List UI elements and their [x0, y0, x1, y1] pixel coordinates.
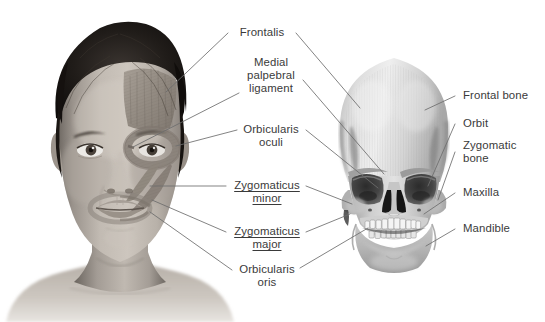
- label-mandible: Mandible: [463, 222, 510, 235]
- label-frontalis-line-1: Frontalis: [232, 26, 292, 39]
- label-frontal-bone-line-1: Frontal bone: [463, 89, 528, 102]
- label-orbicularis-oculi-line-2: oculi: [238, 136, 304, 149]
- label-orbicularis-oris: Orbicularis oris: [234, 263, 300, 289]
- label-frontal-bone: Frontal bone: [463, 89, 528, 102]
- label-zygomaticus-major-line-1: Zygomaticus: [234, 225, 300, 237]
- label-zygomatic-bone: Zygomatic bone: [463, 139, 516, 165]
- label-medial-palpebral-ligament-line-3: ligament: [239, 82, 303, 95]
- label-zygomaticus-minor: Zygomaticus minor: [230, 179, 304, 205]
- label-orbicularis-oris-line-2: oris: [234, 276, 300, 289]
- label-zygomatic-bone-line-1: Zygomatic: [463, 139, 516, 152]
- label-orbicularis-oris-line-1: Orbicularis: [234, 263, 300, 276]
- anatomy-figure: Frontalis Medial palpebral ligament Orbi…: [0, 0, 545, 322]
- label-zygomaticus-minor-line-2: minor: [253, 192, 282, 204]
- label-medial-palpebral-ligament: Medial palpebral ligament: [239, 56, 303, 96]
- label-orbicularis-oculi-line-1: Orbicularis: [238, 123, 304, 136]
- label-zygomaticus-major: Zygomaticus major: [230, 225, 304, 251]
- label-medial-palpebral-ligament-line-2: palpebral: [239, 69, 303, 82]
- label-orbicularis-oculi: Orbicularis oculi: [238, 123, 304, 149]
- label-medial-palpebral-ligament-line-1: Medial: [239, 56, 303, 69]
- label-orbit-line-1: Orbit: [463, 117, 488, 130]
- label-zygomaticus-major-line-2: major: [253, 238, 282, 250]
- label-orbit: Orbit: [463, 117, 488, 130]
- label-zygomaticus-minor-line-1: Zygomaticus: [234, 179, 300, 191]
- label-maxilla: Maxilla: [463, 186, 499, 199]
- label-maxilla-line-1: Maxilla: [463, 186, 499, 199]
- label-frontalis: Frontalis: [232, 26, 292, 39]
- label-mandible-line-1: Mandible: [463, 222, 510, 235]
- label-zygomatic-bone-line-2: bone: [463, 152, 516, 165]
